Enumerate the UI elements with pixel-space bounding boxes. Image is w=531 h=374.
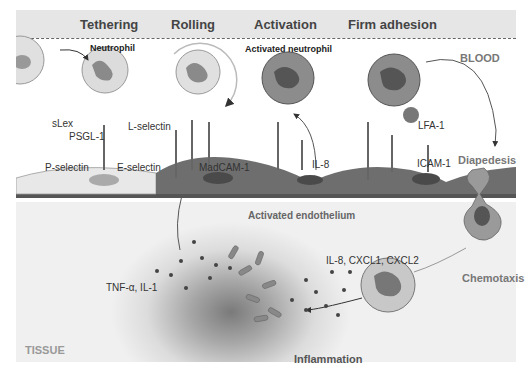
psgl1-label: PSGL-1 [69,131,105,142]
chemotaxis-arrow [306,298,362,310]
icam1-label: ICAM-1 [417,158,451,169]
neutrophil-chemotaxis [361,258,415,312]
slex-label: sLex [52,118,73,129]
chemokines-label: IL-8, CXCL1, CXCL2 [326,255,419,266]
leukocyte-adhesion-cascade-diagram: Tethering Rolling Activation Firm adhesi… [16,10,516,362]
blood-label: BLOOD [460,52,500,64]
inflammation-label: Inflammation [294,353,362,365]
diapedesis-arrow [426,59,496,146]
tnf-il1-label: TNF-α, IL-1 [106,282,157,293]
neutrophil-label: Neutrophil [90,43,135,53]
chemotaxis-line [414,248,466,272]
cytokine-dots [155,240,352,317]
diapedesis-label: Diapedesis [458,154,516,166]
l-selectin-label: L-selectin [128,121,171,132]
tnf-arrow [177,195,182,250]
il8-label: IL-8 [312,159,329,170]
neutrophil-rolling [174,43,237,106]
activated-neutrophil-label: Activated neutrophil [245,44,332,54]
madcam1-label: MadCAM-1 [199,162,250,173]
lfa1-label: LFA-1 [418,120,445,131]
e-selectin-label: E-selectin [117,162,161,173]
neutrophil-partial [16,36,44,84]
diagram-graphics [16,10,516,362]
neutrophil-firm-adhesion [368,54,420,123]
neutrophil-activated [262,52,314,104]
tissue-label: TISSUE [25,344,65,356]
endothelium-label: Activated endothelium [248,210,355,221]
p-selectin-label: P-selectin [45,162,89,173]
neutrophil-tethering [82,47,128,93]
bacteria [228,245,282,322]
chemotaxis-label: Chemotaxis [462,272,524,284]
entry-arrow [60,50,88,60]
